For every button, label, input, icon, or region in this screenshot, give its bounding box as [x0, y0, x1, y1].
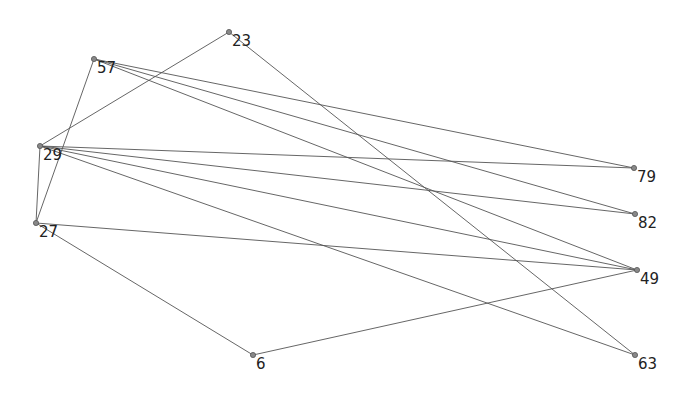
node-label: 27	[39, 223, 58, 241]
edge-57-49	[94, 59, 637, 270]
node-6[interactable]: 6	[250, 352, 265, 373]
node-label: 82	[638, 214, 657, 232]
edge-57-79	[94, 59, 634, 168]
edge-57-82	[94, 59, 635, 214]
node-dot-icon[interactable]	[632, 211, 637, 216]
edge-23-63	[229, 32, 635, 355]
node-dot-icon[interactable]	[250, 352, 255, 357]
edge-layer	[36, 32, 637, 355]
node-dot-icon[interactable]	[37, 143, 42, 148]
node-dot-icon[interactable]	[631, 165, 636, 170]
edge-27-6	[36, 223, 253, 355]
node-49[interactable]: 49	[634, 267, 659, 288]
node-57[interactable]: 57	[91, 56, 116, 77]
node-label: 29	[43, 146, 62, 164]
node-dot-icon[interactable]	[91, 56, 96, 61]
node-23[interactable]: 23	[226, 29, 251, 50]
edge-27-49	[36, 223, 637, 270]
node-27[interactable]: 27	[33, 220, 58, 241]
node-label: 23	[232, 32, 251, 50]
node-63[interactable]: 63	[632, 352, 657, 373]
node-dot-icon[interactable]	[33, 220, 38, 225]
edge-29-82	[40, 146, 635, 214]
node-79[interactable]: 79	[631, 165, 656, 186]
network-graph: 23572927679824963	[0, 0, 688, 398]
node-layer: 23572927679824963	[33, 29, 659, 373]
node-label: 57	[97, 59, 116, 77]
node-dot-icon[interactable]	[226, 29, 231, 34]
edge-23-29	[40, 32, 229, 146]
node-dot-icon[interactable]	[634, 267, 639, 272]
node-dot-icon[interactable]	[632, 352, 637, 357]
node-82[interactable]: 82	[632, 211, 657, 232]
node-29[interactable]: 29	[37, 143, 62, 164]
edge-29-27	[36, 146, 40, 223]
edge-6-49	[253, 270, 637, 355]
node-label: 79	[637, 168, 656, 186]
node-label: 63	[638, 355, 657, 373]
edge-57-27	[36, 59, 94, 223]
node-label: 49	[640, 270, 659, 288]
node-label: 6	[256, 355, 266, 373]
edge-29-63	[40, 146, 635, 355]
